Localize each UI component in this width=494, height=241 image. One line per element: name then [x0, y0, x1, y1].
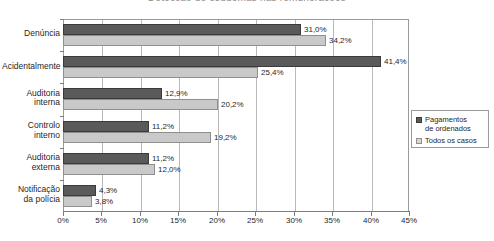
- x-axis-tick: [294, 212, 295, 216]
- bar-value-label: 19,2%: [214, 132, 237, 143]
- gridline: [141, 20, 142, 211]
- bar[interactable]: [63, 35, 326, 46]
- bar[interactable]: [63, 88, 162, 99]
- x-axis-tick: [140, 212, 141, 216]
- legend-swatch-dark-icon: [416, 117, 422, 123]
- x-axis-tick-label: 30%: [279, 216, 309, 226]
- bar[interactable]: [63, 153, 149, 164]
- legend-item-todos-os-casos[interactable]: Todos os casos: [416, 136, 485, 145]
- x-axis-tick-label: 45%: [394, 216, 424, 226]
- legend-label-todos: Todos os casos: [425, 136, 477, 145]
- y-axis-tick: [60, 116, 64, 117]
- category-label: Controlointerno: [2, 121, 60, 140]
- y-axis-tick: [60, 51, 64, 52]
- bar-value-label: 11,2%: [152, 153, 174, 164]
- category-label-line: Auditoria: [26, 88, 60, 98]
- legend-label-pagamentos: Pagamentosde ordenados: [425, 115, 471, 133]
- bar[interactable]: [63, 132, 211, 143]
- bar-value-label: 25,4%: [261, 67, 284, 78]
- category-label: Auditoriaexterna: [2, 153, 60, 172]
- gridline: [256, 20, 257, 211]
- gridline: [218, 20, 219, 211]
- chart-title: Detecção de esquemas nas remunerações: [0, 0, 494, 1]
- bar-value-label: 11,2%: [152, 121, 174, 132]
- legend-item-pagamentos-de-ordenados[interactable]: Pagamentosde ordenados: [416, 115, 485, 133]
- category-label-line: externa: [32, 162, 60, 172]
- bar[interactable]: [63, 121, 149, 132]
- gridline: [372, 20, 373, 211]
- x-axis-tick: [409, 212, 410, 216]
- bar[interactable]: [63, 56, 381, 67]
- y-axis-tick: [60, 148, 64, 149]
- plot-area: [63, 19, 409, 212]
- category-label: Notificaçãoda polícia: [2, 185, 60, 204]
- y-axis-tick: [60, 19, 64, 20]
- bar[interactable]: [63, 67, 258, 78]
- x-axis-tick-label: 20%: [202, 216, 232, 226]
- x-axis-tick: [101, 212, 102, 216]
- x-axis-tick-label: 15%: [163, 216, 193, 226]
- bar[interactable]: [63, 99, 218, 110]
- x-axis-tick-label: 10%: [125, 216, 155, 226]
- gridline: [295, 20, 296, 211]
- bar-value-label: 3,8%: [95, 196, 113, 207]
- category-label-line: Auditoria: [26, 152, 60, 162]
- category-label: Auditoriainterna: [2, 89, 60, 108]
- x-axis-tick: [332, 212, 333, 216]
- x-axis-tick: [63, 212, 64, 216]
- x-axis-tick-label: 5%: [86, 216, 116, 226]
- bar-value-label: 12,9%: [165, 88, 188, 99]
- legend-swatch-light-icon: [416, 138, 422, 144]
- bar-value-label: 12,0%: [158, 164, 181, 175]
- category-label-line: da polícia: [24, 194, 60, 204]
- category-label-line: interna: [34, 97, 60, 107]
- x-axis-tick: [217, 212, 218, 216]
- x-axis-tick: [178, 212, 179, 216]
- gridline: [333, 20, 334, 211]
- bar[interactable]: [63, 164, 155, 175]
- bar-value-label: 41,4%: [384, 56, 407, 67]
- bar-value-label: 20,2%: [221, 99, 244, 110]
- chart-container: Detecção de esquemas nas remunerações De…: [0, 0, 494, 241]
- category-label: Denúncia: [2, 29, 60, 39]
- bar[interactable]: [63, 185, 96, 196]
- bar-value-label: 4,3%: [99, 185, 117, 196]
- gridline: [102, 20, 103, 211]
- y-axis-tick: [60, 83, 64, 84]
- x-axis-tick-label: 0%: [48, 216, 78, 226]
- category-label-line: Denúncia: [24, 28, 60, 38]
- x-axis-tick-label: 25%: [240, 216, 270, 226]
- category-label-line: Controlo: [28, 120, 60, 130]
- bar[interactable]: [63, 24, 301, 35]
- category-label-line: Acidentalmente: [2, 61, 61, 71]
- x-axis-tick-label: 35%: [317, 216, 347, 226]
- x-axis-tick: [371, 212, 372, 216]
- category-label: Acidentalmente: [2, 62, 60, 72]
- x-axis-line: [63, 211, 410, 212]
- bar-value-label: 34,2%: [329, 35, 352, 46]
- gridline: [179, 20, 180, 211]
- bar[interactable]: [63, 196, 92, 207]
- category-label-line: interno: [34, 130, 60, 140]
- x-axis-tick: [255, 212, 256, 216]
- x-axis-tick-label: 40%: [356, 216, 386, 226]
- bar-value-label: 31,0%: [304, 24, 327, 35]
- chart-legend: Pagamentosde ordenados Todos os casos: [411, 110, 489, 148]
- category-label-line: Notificação: [18, 184, 60, 194]
- y-axis-tick: [60, 180, 64, 181]
